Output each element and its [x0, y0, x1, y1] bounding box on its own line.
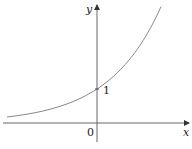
- exponential-curve: [7, 7, 161, 117]
- exponential-graph: y x 0 1: [0, 0, 192, 149]
- x-axis-label: x: [183, 126, 190, 139]
- intercept-label: 1: [103, 84, 110, 97]
- origin-label: 0: [87, 126, 94, 139]
- y-axis-label: y: [85, 3, 93, 16]
